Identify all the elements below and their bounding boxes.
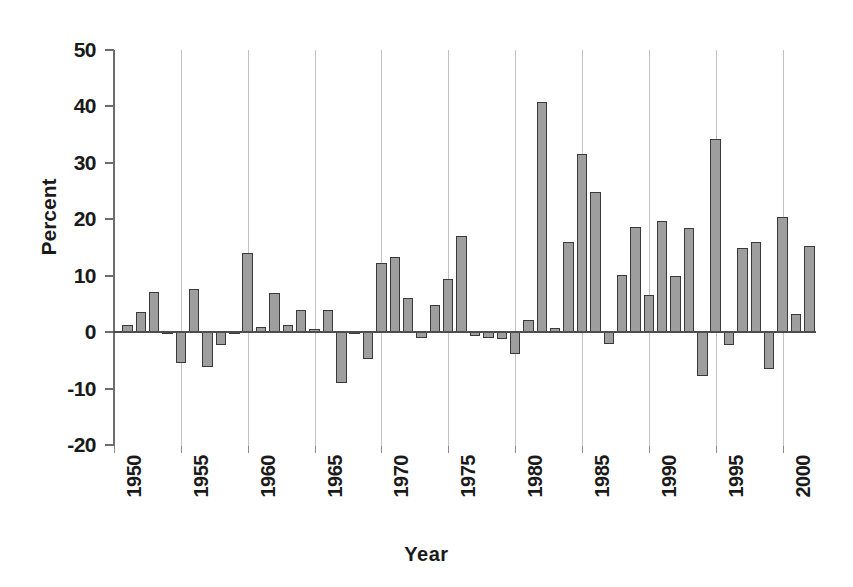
bar xyxy=(697,332,707,375)
y-tick xyxy=(105,49,114,51)
y-tick xyxy=(105,388,114,390)
bar xyxy=(751,242,761,332)
bar xyxy=(443,279,453,333)
y-tick-label: 20 xyxy=(38,208,96,229)
bar xyxy=(537,102,547,332)
bar xyxy=(710,139,720,332)
x-tick-label: 1960 xyxy=(258,455,278,498)
bar xyxy=(684,228,694,332)
x-tick xyxy=(181,446,182,453)
x-tick-label: 1980 xyxy=(525,455,545,498)
bar xyxy=(644,295,654,332)
bar xyxy=(176,332,186,362)
gridline xyxy=(181,50,182,446)
bar xyxy=(242,253,252,332)
bar xyxy=(323,310,333,332)
bar xyxy=(510,332,520,353)
bar xyxy=(403,298,413,332)
x-tick xyxy=(114,446,115,453)
bar xyxy=(363,332,373,359)
y-tick-label: 10 xyxy=(38,265,96,286)
bar xyxy=(390,257,400,333)
gridline xyxy=(448,50,449,446)
x-tick-label: 1985 xyxy=(592,455,612,498)
zero-baseline xyxy=(113,331,816,333)
y-tick xyxy=(105,105,114,107)
x-tick xyxy=(649,446,650,453)
x-tick xyxy=(315,446,316,453)
bar xyxy=(670,276,680,332)
bar xyxy=(630,227,640,332)
gridline xyxy=(515,50,516,446)
bar xyxy=(777,217,787,332)
bar xyxy=(617,275,627,333)
x-tick-label: 1970 xyxy=(391,455,411,498)
bar xyxy=(202,332,212,367)
bar xyxy=(269,293,279,333)
bar xyxy=(764,332,774,369)
bar-chart: Percent 50403020100-10-20 19501955196019… xyxy=(0,0,853,587)
x-tick-label: 1975 xyxy=(458,455,478,498)
bar xyxy=(456,236,466,332)
x-tick-label: 1950 xyxy=(124,455,144,498)
bar xyxy=(189,289,199,332)
x-tick xyxy=(783,446,784,453)
x-tick-label: 1965 xyxy=(325,455,345,498)
bar xyxy=(724,332,734,344)
bar xyxy=(296,310,306,333)
x-tick xyxy=(248,446,249,453)
x-tick xyxy=(582,446,583,453)
x-tick-label: 1955 xyxy=(191,455,211,498)
bar xyxy=(376,263,386,332)
y-tick-label: -10 xyxy=(38,378,96,399)
x-tick xyxy=(448,446,449,453)
y-tick xyxy=(105,275,114,277)
y-tick-label: 30 xyxy=(38,152,96,173)
bar xyxy=(604,332,614,344)
bar xyxy=(737,248,747,333)
bar xyxy=(590,192,600,332)
x-tick xyxy=(716,446,717,453)
bar xyxy=(804,246,814,332)
gridline xyxy=(248,50,249,446)
bar xyxy=(136,312,146,332)
bar xyxy=(791,314,801,332)
x-tick xyxy=(381,446,382,453)
bar xyxy=(563,242,573,332)
bar xyxy=(216,332,226,344)
y-tick-label: 40 xyxy=(38,95,96,116)
x-tick-label: 1995 xyxy=(726,455,746,498)
y-tick xyxy=(105,162,114,164)
x-tick xyxy=(515,446,516,453)
x-tick-label: 2000 xyxy=(793,455,813,498)
gridline xyxy=(649,50,650,446)
y-tick-label: 0 xyxy=(38,321,96,342)
bar xyxy=(430,305,440,332)
gridline xyxy=(381,50,382,446)
x-tick-label: 1990 xyxy=(659,455,679,498)
bar xyxy=(577,154,587,332)
bar xyxy=(336,332,346,383)
bar xyxy=(149,292,159,333)
bar xyxy=(497,332,507,339)
gridline xyxy=(315,50,316,446)
y-tick-label: 50 xyxy=(38,39,96,60)
y-tick xyxy=(105,444,114,446)
bar xyxy=(657,221,667,332)
y-tick-label: -20 xyxy=(38,434,96,455)
x-axis-title: Year xyxy=(0,543,853,566)
y-tick xyxy=(105,218,114,220)
